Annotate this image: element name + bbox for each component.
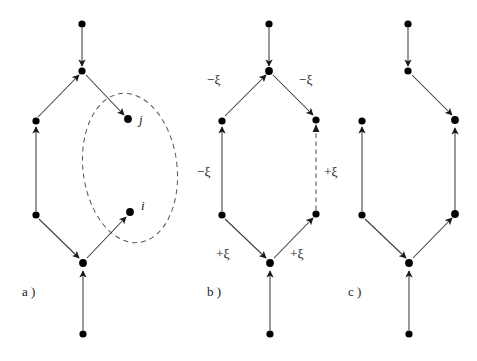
edge-lowleft-to-lowjunction (365, 219, 406, 258)
edge-upleft-to-junction (225, 75, 266, 116)
node-lower-junction (405, 259, 413, 267)
edge-lowjunction-to-lowright (413, 218, 452, 258)
node-top (404, 20, 411, 27)
node-upper-right (312, 116, 319, 123)
node-j (124, 115, 132, 123)
node-lower-left (218, 211, 225, 218)
node-upper-left (218, 117, 225, 124)
panel-b-edge-labels: −ξ −ξ −ξ +ξ +ξ +ξ (197, 72, 338, 261)
edge-label-upper-left: −ξ (207, 72, 221, 87)
panel-a: j i a ) (22, 20, 186, 337)
node-lower-junction (266, 259, 274, 267)
node-lower-left (358, 211, 365, 218)
edge-head-lowright-to-upright (313, 124, 320, 132)
node-upper-junction (404, 67, 411, 74)
node-upper-left (32, 117, 39, 124)
node-lower-right (451, 210, 459, 218)
edge-label-upper-right: −ξ (299, 72, 313, 87)
panel-label-a: a ) (22, 284, 35, 299)
node-top (78, 20, 85, 27)
edge-label-lower-left: +ξ (216, 246, 230, 261)
highlight-ellipse (74, 88, 186, 248)
figure-canvas: j i a ) (0, 0, 477, 361)
edge-lowleft-to-lowjunction (39, 219, 79, 258)
node-i (126, 208, 134, 216)
edge-label-lower-right: +ξ (290, 246, 304, 261)
node-bottom (266, 330, 273, 337)
edge-lowjunction-to-i (87, 217, 126, 258)
node-bottom (405, 330, 412, 337)
panel-b: −ξ −ξ −ξ +ξ +ξ +ξ b ) (197, 20, 338, 337)
diagram-svg: j i a ) (0, 0, 477, 361)
node-upper-junction (78, 67, 85, 74)
edge-upleft-to-junction (38, 75, 79, 117)
node-lower-left (32, 211, 39, 218)
edge-lowleft-to-lowjunction (225, 219, 266, 258)
panel-b-nodes (218, 20, 319, 337)
node-bottom (79, 330, 86, 337)
panel-label-c: c ) (348, 284, 361, 299)
node-upper-right (451, 116, 459, 124)
node-label-j: j (137, 112, 143, 127)
node-upper-left (358, 117, 365, 124)
node-label-i: i (141, 198, 145, 213)
panel-c: c ) (348, 20, 459, 337)
edge-label-right-vertical: +ξ (324, 164, 338, 179)
edge-junction-to-upright (412, 75, 452, 115)
node-lower-junction (79, 259, 87, 267)
edge-junction-to-j (86, 75, 124, 115)
node-lower-right (312, 210, 319, 217)
edge-label-left-vertical: −ξ (197, 164, 211, 179)
node-top (265, 20, 272, 27)
node-upper-junction (265, 67, 273, 75)
panel-label-b: b ) (207, 284, 221, 299)
